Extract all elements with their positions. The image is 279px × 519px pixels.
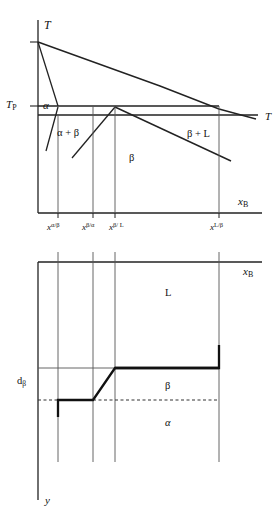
bottom-chart-group bbox=[38, 252, 262, 500]
bottom-x-axis-label: xB bbox=[243, 266, 253, 279]
tick-label-l-beta: xL/β bbox=[210, 222, 223, 232]
top-x-axis-label: xB bbox=[238, 196, 248, 209]
top-right-temperature-label: T bbox=[265, 111, 271, 122]
tick-label-beta-l-sup: β/ L bbox=[113, 221, 124, 228]
phase-diagram-figure: T TP α α + β β β + L T xB xα/β xβ/α xβ/ … bbox=[0, 0, 279, 519]
tick-label-beta-l: xβ/ L bbox=[109, 222, 124, 232]
tick-label-beta-alpha-sup: β/α bbox=[86, 221, 94, 228]
tick-label-alpha-beta-sup: α/β bbox=[51, 221, 59, 228]
diagram-canvas bbox=[0, 0, 279, 519]
region-label-alpha-beta: α + β bbox=[57, 128, 79, 139]
bottom-x-axis-label-sub: B bbox=[248, 270, 253, 279]
peritectic-temperature-label-sub: P bbox=[12, 103, 16, 112]
beta-thickness-label: dβ bbox=[17, 376, 26, 388]
liquidus-curve bbox=[38, 42, 256, 119]
top-y-axis-label: T bbox=[44, 19, 51, 31]
bottom-region-label-beta: β bbox=[165, 381, 170, 392]
beta-thickness-label-sub: β bbox=[22, 379, 26, 388]
region-label-beta-liquid: β + L bbox=[187, 129, 210, 140]
region-label-alpha: α bbox=[43, 100, 49, 111]
top-x-axis-label-sub: B bbox=[243, 200, 248, 209]
peritectic-temperature-label: TP bbox=[6, 99, 17, 112]
region-label-beta: β bbox=[129, 153, 134, 164]
top-chart-group bbox=[30, 20, 262, 218]
bottom-region-label-liquid: L bbox=[165, 288, 171, 299]
bottom-y-axis-label: y bbox=[45, 495, 50, 506]
bottom-region-label-alpha: α bbox=[165, 418, 171, 429]
tick-label-beta-alpha: xβ/α bbox=[82, 222, 94, 232]
tick-label-l-beta-sup: L/β bbox=[214, 221, 223, 228]
interface-profile-curve bbox=[58, 345, 219, 417]
alpha-solidus-line bbox=[38, 42, 58, 106]
tick-label-alpha-beta: xα/β bbox=[47, 222, 59, 232]
